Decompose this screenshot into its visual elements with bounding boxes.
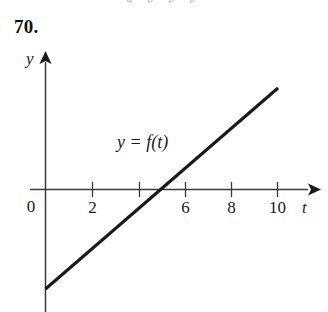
x-axis-arrowhead xyxy=(308,184,321,196)
x-tick-label-6: 6 xyxy=(181,198,190,217)
x-tick-label-8: 8 xyxy=(227,198,236,217)
y-axis-label: y xyxy=(24,49,34,68)
graph-figure: y t 0 2 6 8 10 y = f(t) xyxy=(0,0,328,312)
curve-label: y = f(t) xyxy=(115,132,168,153)
x-axis-label: t xyxy=(302,198,308,217)
x-tick-label-2: 2 xyxy=(88,198,97,217)
x-tick-label-10: 10 xyxy=(269,198,286,217)
figure-page: g p p p 70. y t 0 xyxy=(0,0,328,312)
origin-label: 0 xyxy=(27,197,36,216)
function-line xyxy=(46,88,279,289)
